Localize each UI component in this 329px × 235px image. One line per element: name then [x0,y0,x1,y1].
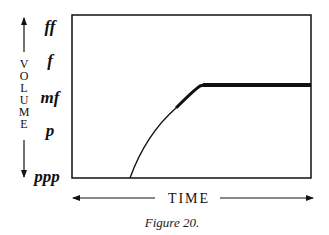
dynamic-label-f: f [47,51,55,70]
dynamic-label-p: p [44,121,55,140]
dynamic-label-ff: ff [44,17,57,36]
envelope-attack-curve [130,108,176,178]
volume-letter-e: E [20,117,27,131]
figure-caption: Figure 20. [144,215,199,230]
dynamic-label-ppp: ppp [32,167,60,186]
envelope-attack-thick [176,85,204,108]
plot-frame [72,15,311,178]
dynamic-label-mf: mf [41,88,62,107]
time-axis-label: TIME [168,191,210,206]
volume-time-diagram: V O L U M E ff f mf p ppp TIME Figure 20… [0,0,329,235]
